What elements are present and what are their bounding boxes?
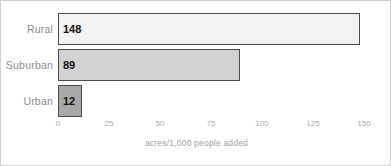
bar-value-rural: 148 — [58, 13, 81, 45]
bar-suburban[interactable] — [58, 49, 240, 81]
bar-value-urban: 12 — [58, 85, 75, 117]
x-tick-25: 25 — [105, 119, 114, 128]
category-label-suburban: Suburban — [0, 48, 58, 82]
x-tick-150: 150 — [357, 119, 370, 128]
category-label-urban: Urban — [0, 84, 58, 118]
x-tick-100: 100 — [255, 119, 268, 128]
chart-frame: Rural 148 Suburban 89 Urban 12 0 25 50 7… — [0, 0, 391, 166]
x-tick-75: 75 — [207, 119, 216, 128]
x-tick-0: 0 — [56, 119, 60, 128]
x-axis-title: acres/1,000 people added — [1, 138, 391, 148]
bar-value-suburban: 89 — [58, 49, 75, 81]
bar-row: Rural 148 — [1, 12, 391, 46]
x-tick-50: 50 — [156, 119, 165, 128]
category-label-rural: Rural — [0, 12, 58, 46]
bar-row: Suburban 89 — [1, 48, 391, 82]
x-tick-125: 125 — [306, 119, 319, 128]
x-axis: 0 25 50 75 100 125 150 — [1, 119, 391, 135]
bar-rural[interactable] — [58, 13, 360, 45]
bar-row: Urban 12 — [1, 84, 391, 118]
